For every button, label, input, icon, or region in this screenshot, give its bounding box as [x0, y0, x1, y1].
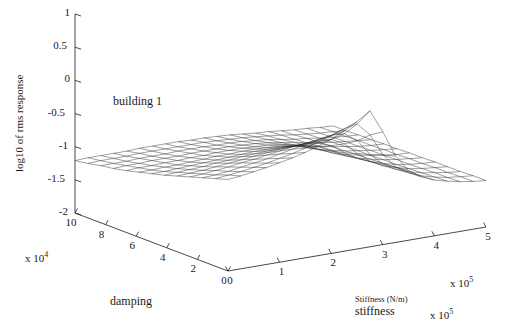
z-tick-label-4: -1	[59, 140, 68, 151]
surface-mesh	[75, 111, 486, 182]
damping-multiplier-exponent: 4	[44, 250, 48, 259]
damping-axis-multiplier: x 104	[25, 251, 48, 264]
z-tick-6	[75, 213, 81, 215]
z-tick-label-5: -1.5	[48, 173, 65, 184]
stiffness-tick-label-3: 3	[382, 249, 388, 260]
z-tick-4	[75, 147, 81, 149]
mesh-row-2	[203, 134, 461, 178]
damping-tick-label-5: 0	[221, 275, 227, 286]
damping-multiplier-text: x 10	[25, 252, 44, 264]
stiffness-tick-label-4: 4	[434, 240, 440, 251]
mesh-col-16	[281, 131, 434, 180]
z-tick-label-0: 1	[64, 7, 70, 18]
damping-tick-label-2: 6	[129, 240, 135, 251]
stiffness-multiplier-lower-exponent: 5	[449, 307, 453, 316]
mesh-col-20	[333, 126, 486, 181]
damping-tick-2	[136, 232, 139, 237]
stiffness-tick-1	[277, 258, 280, 263]
damping-axis-title: damping	[110, 295, 152, 307]
z-tick-3	[75, 114, 81, 116]
z-tick-1	[75, 47, 81, 49]
stiffness-multiplier-exponent: 5	[469, 275, 473, 284]
plot-canvas	[0, 0, 510, 331]
z-axis-title: log10 of rms response	[14, 75, 25, 172]
damping-tick-label-3: 4	[160, 252, 166, 263]
z-tick-0	[75, 14, 81, 16]
mesh-col-4	[127, 151, 280, 163]
mesh-col-2	[101, 156, 254, 172]
stiffness-tick-2	[329, 249, 332, 254]
stiffness-multiplier-lower-text: x 10	[430, 309, 449, 321]
damping-tick-3	[167, 243, 170, 248]
mesh-col-18	[307, 128, 460, 181]
damping-tick-1	[106, 220, 109, 225]
stiffness-axis-line	[228, 227, 486, 271]
mesh-col-17	[294, 130, 447, 181]
mesh-row-8	[126, 144, 384, 171]
stiffness-tick-4	[432, 231, 435, 236]
stiffness-tick-label-0: 0	[227, 275, 233, 286]
damping-axis-line	[75, 213, 228, 271]
stiffness-axis-title: stiffness	[355, 305, 395, 317]
damping-tick-label-0: 10	[65, 217, 76, 228]
mesh-col-3	[114, 153, 267, 167]
stiffness-axis-multiplier: x 105	[450, 276, 473, 289]
stiffness-tick-label-1: 1	[279, 266, 285, 277]
z-tick-label-1: 0.5	[53, 40, 67, 51]
stiffness-tick-5	[484, 223, 487, 228]
stiffness-tick-3	[380, 240, 383, 245]
z-tick-label-3: -0.5	[48, 107, 65, 118]
z-tick-2	[75, 80, 81, 82]
stiffness-multiplier-text: x 10	[450, 277, 469, 289]
damping-tick-label-1: 8	[99, 229, 105, 240]
mesh-col-11	[217, 111, 370, 146]
z-tick-5	[75, 180, 81, 182]
stiffness-tick-label-2: 2	[330, 257, 336, 268]
matlab-3d-surface-figure: log10 of rms response building 1 damping…	[0, 0, 510, 331]
damping-tick-label-4: 2	[191, 263, 197, 274]
stiffness-axis-title-overlay: Stiffness (N/m)	[355, 295, 408, 304]
building-annotation: building 1	[113, 95, 162, 107]
z-tick-label-2: 0	[64, 73, 70, 84]
stiffness-tick-label-5: 5	[485, 231, 491, 242]
damping-tick-4	[197, 255, 200, 260]
stiffness-axis-multiplier-lower: x 105	[430, 308, 453, 321]
